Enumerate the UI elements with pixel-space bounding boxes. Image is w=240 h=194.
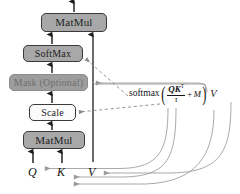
formula-denominator: τ [175, 96, 178, 105]
node-softmax: SoftMax [23, 45, 83, 62]
formula-value-symbol: V [210, 89, 216, 100]
attention-formula: softmax ( QKT τ + M ) V [129, 84, 217, 104]
node-matmul-bottom: MatMul [23, 131, 85, 149]
formula-plus-sign: + [187, 90, 192, 99]
attention-diagram: MatMul SoftMax Mask (Optional) Scale Mat… [0, 0, 240, 194]
node-softmax-label: SoftMax [35, 49, 71, 59]
formula-mask-symbol: M [193, 90, 201, 99]
input-label-q: Q [28, 166, 37, 178]
node-matmul-bottom-label: MatMul [35, 135, 72, 146]
node-mask-optional: Mask (Optional) [9, 74, 88, 91]
node-scale: Scale [29, 104, 76, 121]
input-label-k: K [57, 166, 65, 178]
node-mask-label: Mask (Optional) [14, 78, 83, 88]
formula-fraction: QKT τ [167, 84, 185, 104]
node-matmul-top: MatMul [41, 13, 107, 32]
formula-numerator-base: QK [168, 84, 181, 94]
input-label-v: V [88, 166, 95, 178]
formula-numerator: QKT [167, 84, 185, 95]
node-matmul-top-label: MatMul [55, 17, 92, 28]
node-scale-label: Scale [41, 108, 64, 118]
formula-numerator-superscript: T [181, 83, 184, 89]
formula-softmax-name: softmax [129, 89, 160, 99]
